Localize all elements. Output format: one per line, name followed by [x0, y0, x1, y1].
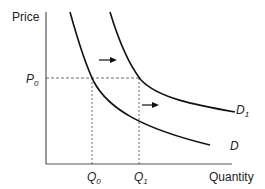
shift-arrow-icon [142, 102, 159, 108]
demand-curve-d1 [110, 12, 235, 112]
shift-arrow-icon [99, 57, 117, 63]
x-axis-label: Quantity [209, 170, 254, 184]
p0-label: P0 [26, 72, 39, 88]
d1-curve-label: D1 [236, 103, 249, 119]
q0-label: Q0 [87, 170, 101, 186]
d-curve-label: D [230, 139, 239, 153]
demand-shift-chart: Price P0 Q0 Q1 Quantity D D1 [0, 0, 265, 189]
y-axis-label: Price [12, 10, 40, 24]
q1-label: Q1 [134, 170, 148, 186]
